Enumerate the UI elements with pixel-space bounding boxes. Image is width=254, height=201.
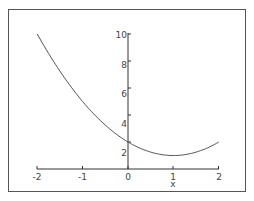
y-tick-label: 6 [121, 89, 127, 99]
plot-area: -2 -1 0 1 2 x 2 4 6 8 10 [0, 0, 254, 201]
y-tick-label: 2 [121, 148, 127, 158]
y-tick-label: 10 [116, 30, 128, 40]
x-tick-label: -1 [78, 172, 87, 182]
y-tick-label: 4 [121, 119, 127, 129]
x-tick-label: 0 [125, 172, 131, 182]
y-tick-label: 8 [121, 60, 127, 70]
x-axis-label: x [170, 179, 176, 189]
x-tick-label: 2 [216, 172, 222, 182]
x-tick-label: -2 [33, 172, 42, 182]
